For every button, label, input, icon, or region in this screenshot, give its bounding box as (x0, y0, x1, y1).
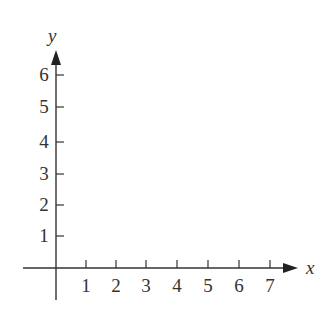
x-tick-label: 6 (234, 275, 244, 296)
y-axis-arrow-icon (51, 50, 61, 65)
coordinate-plane: x y 1 2 3 4 5 6 7 1 2 3 4 5 6 (0, 0, 324, 318)
x-tick-label: 2 (111, 275, 121, 296)
y-tick-label: 4 (39, 131, 49, 152)
x-tick-label: 4 (172, 275, 182, 296)
x-axis-label: x (305, 257, 315, 278)
x-tick-labels: 1 2 3 4 5 6 7 (81, 275, 275, 296)
y-tick-label: 2 (39, 194, 49, 215)
y-tick-label: 6 (39, 64, 49, 85)
y-tick-label: 3 (39, 163, 49, 184)
x-tick-label: 3 (141, 275, 151, 296)
x-ticks (86, 260, 270, 268)
y-ticks (56, 75, 64, 236)
y-axis-label: y (46, 25, 57, 46)
x-tick-label: 1 (81, 275, 91, 296)
x-axis-arrow-icon (283, 263, 298, 273)
y-tick-label: 1 (39, 225, 49, 246)
y-tick-label: 5 (39, 96, 49, 117)
y-tick-labels: 1 2 3 4 5 6 (39, 64, 49, 246)
x-tick-label: 5 (203, 275, 213, 296)
x-tick-label: 7 (265, 275, 275, 296)
